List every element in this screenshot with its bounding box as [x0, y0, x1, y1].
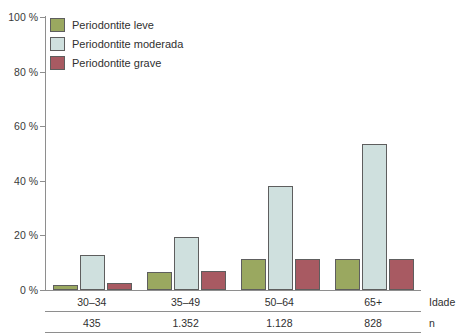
- legend-swatch-grave: [50, 56, 65, 70]
- bar: [107, 283, 132, 290]
- bar: [201, 271, 226, 290]
- bar-group: [327, 17, 421, 290]
- age-group-label: 30–34: [45, 297, 139, 308]
- age-group-label: 35–49: [139, 297, 233, 308]
- age-group-label: 65+: [326, 297, 420, 308]
- legend-label: Periodontite leve: [72, 20, 154, 31]
- sample-size-value: 828: [326, 318, 420, 329]
- age-row-header: Idade: [429, 297, 455, 308]
- y-axis-tick: [40, 235, 45, 236]
- bar: [80, 255, 105, 290]
- y-axis-tick-label: 100 %: [0, 12, 38, 23]
- y-axis-tick-label: 0 %: [0, 285, 38, 296]
- legend-label: Periodontite moderada: [72, 39, 183, 50]
- legend: Periodontite levePeriodontite moderadaPe…: [50, 17, 183, 71]
- age-group-label: 50–64: [233, 297, 327, 308]
- y-axis-tick: [40, 17, 45, 18]
- bar-group: [234, 17, 328, 290]
- bar: [362, 144, 387, 290]
- sample-size-value: 1.352: [139, 318, 233, 329]
- y-axis-tick-label: 60 %: [0, 121, 38, 132]
- bar: [174, 237, 199, 290]
- legend-swatch-leve: [50, 18, 65, 32]
- y-axis-tick-label: 80 %: [0, 67, 38, 78]
- bar: [295, 259, 320, 290]
- legend-label: Periodontite grave: [72, 58, 161, 69]
- table-rule-top: [45, 290, 421, 291]
- bar: [268, 186, 293, 290]
- y-axis-tick: [40, 126, 45, 127]
- sample-size-value: 1.128: [233, 318, 327, 329]
- legend-item: Periodontite moderada: [50, 36, 183, 52]
- bar: [147, 272, 172, 290]
- y-axis-tick-label: 40 %: [0, 176, 38, 187]
- y-axis-tick-label: 20 %: [0, 230, 38, 241]
- y-axis-tick: [40, 181, 45, 182]
- legend-item: Periodontite leve: [50, 17, 183, 33]
- periodontitis-bar-chart: 0 %20 %40 %60 %80 %100 % Periodontite le…: [0, 0, 471, 335]
- n-row-header: n: [429, 318, 435, 329]
- bar: [241, 259, 266, 290]
- table-rule-bottom: [45, 332, 421, 333]
- y-axis-tick: [40, 290, 45, 291]
- y-axis-tick: [40, 72, 45, 73]
- bottom-annotation-table: Idade n 30–3443535–491.35250–641.12865+8…: [45, 290, 471, 335]
- legend-item: Periodontite grave: [50, 55, 183, 71]
- sample-size-value: 435: [45, 318, 139, 329]
- y-axis-labels: 0 %20 %40 %60 %80 %100 %: [0, 0, 38, 335]
- table-rule-middle: [45, 311, 421, 312]
- bar: [389, 259, 414, 290]
- legend-swatch-moderada: [50, 37, 65, 51]
- bar: [335, 259, 360, 290]
